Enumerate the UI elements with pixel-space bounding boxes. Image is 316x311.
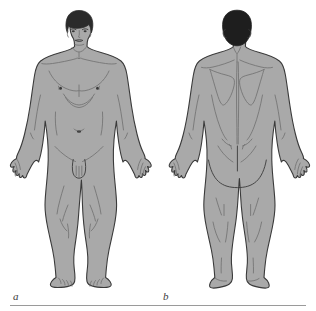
- anterior-body-silhouette: [10, 12, 151, 288]
- anterior-figure-illustration: .sk { fill:#a9a9a9; stroke:#3a3a3a; stro…: [0, 0, 158, 300]
- anatomy-figure-plate: .sk { fill:#a9a9a9; stroke:#3a3a3a; stro…: [0, 0, 316, 311]
- posterior-figure-illustration: .sk2 { fill:#a9a9a9; stroke:#3a3a3a; str…: [158, 0, 316, 300]
- panel-anterior-view: .sk { fill:#a9a9a9; stroke:#3a3a3a; stro…: [0, 0, 158, 300]
- bottom-divider-rule: [10, 305, 306, 306]
- posterior-body-silhouette: [169, 12, 309, 288]
- figure-label-a: a: [13, 290, 19, 302]
- panel-posterior-view: .sk2 { fill:#a9a9a9; stroke:#3a3a3a; str…: [158, 0, 316, 300]
- posterior-hair: [223, 10, 252, 46]
- figure-label-b: b: [163, 290, 169, 302]
